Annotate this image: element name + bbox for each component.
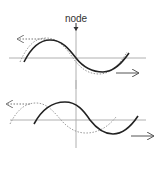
bottom-dotted-wave — [10, 103, 116, 133]
node-pointer-arrow-icon — [74, 23, 79, 31]
bottom-solid-wave — [34, 102, 138, 134]
bottom-panel — [6, 80, 154, 148]
node-label: node — [65, 13, 88, 24]
top-panel — [9, 30, 146, 89]
standing-wave-diagram: node — [0, 0, 161, 169]
